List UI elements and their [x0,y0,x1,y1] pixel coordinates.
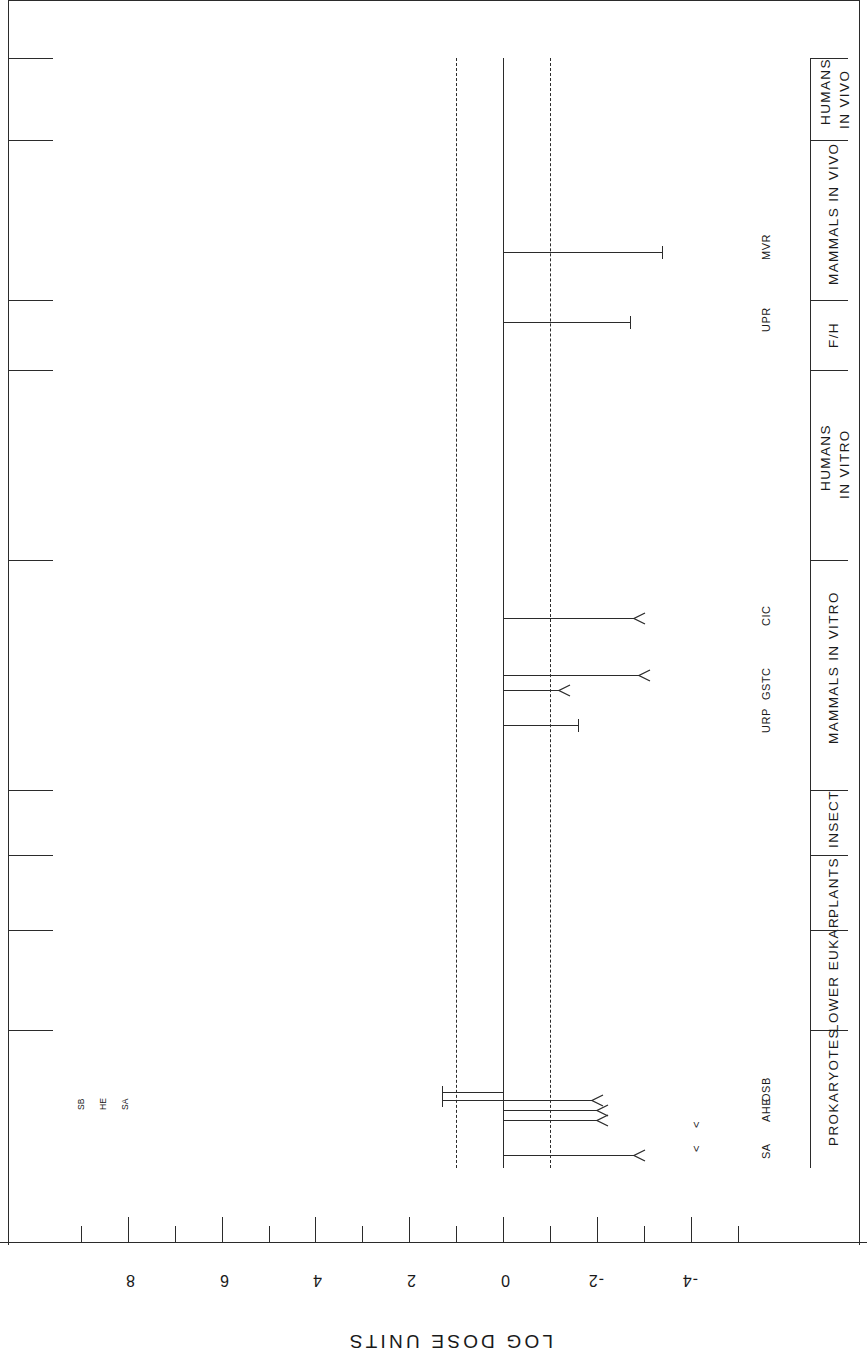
high-end-annotation-0: SA [120,1099,130,1110]
axis-tick-label--4: -4 [681,1271,697,1289]
category-separator [810,300,848,301]
data-bar [442,1092,503,1093]
bar-end-cap [578,719,579,732]
reference-line-plus1 [456,58,457,1168]
axis-tick--2 [597,1217,598,1243]
data-bar [503,725,578,726]
category-separator [810,855,848,856]
category-separator [810,560,848,561]
category-edge-tick [8,370,53,371]
category-label-mammals-in-vivo: MAMMALS IN VIVO [826,142,841,285]
reference-line-minus1 [550,58,551,1168]
axis-tick-9 [81,1226,82,1243]
bar-start-cap [503,246,504,259]
category-label-insect: INSECT [826,790,841,848]
category-edge-tick [8,790,53,791]
category-edge-tick [8,1030,53,1031]
axis-tick--4 [691,1217,692,1243]
axis-tick--1 [550,1226,551,1243]
axis-tick--3 [644,1226,645,1243]
data-bar [503,690,559,691]
axis-tick-4 [315,1217,316,1243]
data-bar [503,322,630,323]
category-label-humans-in-vitro: HUMANS [818,424,833,491]
axis-tick-3 [362,1226,363,1243]
data-bar [503,1120,597,1121]
bar-end-cap [630,316,631,329]
bar-end-arrow-icon [558,684,571,697]
bar-start-cap [503,612,504,625]
axis-tick-8 [128,1217,129,1243]
data-bar [503,618,634,619]
bar-start-cap [503,1104,504,1117]
category-label-humans-in-vivo: HUMANS [818,58,833,125]
category-label-prokaryotes: PROKARYOTES [826,1028,841,1146]
point-label-mammals-in-vivo-1: MVR [760,234,772,260]
less-than-marker-0: < [690,1145,702,1152]
axis-title: LOG DOSE UNITS [347,1330,553,1352]
figure-root: LOG DOSE UNITS 86420-2-4PROKARYOTESLOWER… [0,0,867,1367]
axis-tick-label--2: -2 [588,1271,604,1289]
category-label-f-h: F/H [826,322,841,348]
category-edge-tick [8,300,53,301]
bar-start-cap [442,1086,443,1099]
point-label-mammals-in-vivo-0: UPR [760,307,772,332]
category-label-humans-in-vitro-line2: IN VITRO [837,430,852,500]
data-bar [503,675,639,676]
axis-tick-5 [269,1226,270,1243]
category-separator [810,58,848,59]
high-end-annotation-1: HE [98,1098,108,1110]
bar-end-cap [503,1086,504,1099]
axis-tick-7 [175,1226,176,1243]
bar-end-arrow-icon [633,1149,646,1162]
axis-tick-0 [503,1217,504,1243]
data-bar [503,1155,634,1156]
category-edge-tick [8,560,53,561]
high-end-annotation-2: SB [76,1099,86,1110]
bar-start-cap [503,316,504,329]
axis-tick-label-0: 0 [500,1271,510,1289]
category-label-mammals-in-vitro: MAMMALS IN VITRO [826,591,841,744]
axis-tick-2 [409,1217,410,1243]
bar-end-arrow-icon [638,669,651,682]
point-label-prokaryotes-0: SA [760,1143,772,1159]
point-label-mammals-in-vitro-2: CIC [760,606,772,626]
axis-tick-6 [222,1217,223,1243]
data-bar [503,1110,597,1111]
category-edge-tick [8,140,53,141]
axis-tick-1 [456,1226,457,1243]
axis-tick-label-2: 2 [406,1271,416,1289]
plot-area [0,0,867,1367]
category-label-plants: PLANTS [826,857,841,918]
bar-start-cap [503,684,504,697]
data-bar [503,252,662,253]
less-than-marker-1: < [690,1121,702,1128]
category-separator [810,140,848,141]
bar-start-cap [503,669,504,682]
category-separator [810,930,848,931]
point-label-mammals-in-vitro-0: URP [760,708,772,733]
bar-start-cap [503,719,504,732]
axis-tick-label-6: 6 [219,1271,229,1289]
category-label-humans-in-vivo-line2: IN VIVO [837,70,852,129]
bar-start-cap [503,1149,504,1162]
point-label-mammals-in-vitro-1: GSTC [760,667,772,700]
bar-end-cap [662,246,663,259]
category-edge-tick [8,58,53,59]
bar-end-arrow-icon [633,612,646,625]
category-separator [810,790,848,791]
axis-tick--5 [738,1226,739,1243]
point-label-prokaryotes-2: OSB [760,1077,772,1102]
category-separator [810,370,848,371]
axis-tick-label-8: 8 [125,1271,135,1289]
category-edge-tick [8,930,53,931]
category-edge-tick [8,855,53,856]
category-axis-rule [810,58,811,1168]
axis-tick-label-4: 4 [312,1271,322,1289]
bar-end-arrow-icon [591,1094,604,1107]
data-bar [442,1100,592,1101]
